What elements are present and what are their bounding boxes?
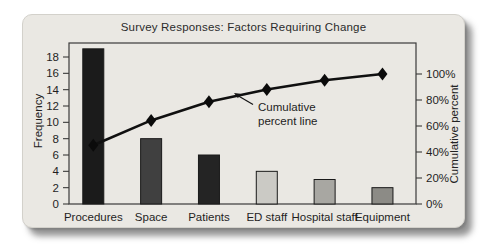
left-axis-tick-label: 10 <box>46 116 59 128</box>
cumulative-point-marker <box>204 95 214 108</box>
left-axis-label: Frequency <box>32 71 44 171</box>
left-axis-tick-label: 18 <box>46 51 59 63</box>
x-axis-category-label: Patients <box>188 211 230 223</box>
left-axis-tick-label: 8 <box>53 133 59 145</box>
x-axis-category-label: Hospital staff <box>291 211 358 223</box>
left-axis-tick-label: 0 <box>53 198 59 210</box>
left-axis-tick-label: 2 <box>53 182 59 194</box>
cumulative-line <box>93 74 382 145</box>
bar-patients <box>198 155 219 204</box>
left-axis-tick-label: 4 <box>53 165 60 177</box>
cumulative-point-marker <box>146 114 156 127</box>
plot-frame <box>69 43 416 204</box>
right-axis-tick-label: 0% <box>426 198 443 210</box>
bar-equipment <box>372 188 393 204</box>
right-axis-tick-label: 40% <box>426 146 449 158</box>
cumulative-point-marker <box>320 74 330 87</box>
cumulative-point-marker <box>262 83 272 96</box>
left-axis-tick-label: 12 <box>46 100 59 112</box>
cumulative-point-marker <box>377 68 387 81</box>
bar-hospital-staff <box>314 180 335 205</box>
cumulative-line-annotation: percent line <box>258 115 317 127</box>
x-axis-category-label: ED staff <box>246 211 287 223</box>
pareto-plot: 0246810121416180%20%40%60%80%100%Procedu… <box>23 15 464 227</box>
right-axis-tick-label: 20% <box>426 172 449 184</box>
right-axis-label: Cumulative percent <box>448 74 460 194</box>
page-background: Survey Responses: Factors Requiring Chan… <box>0 0 495 248</box>
bar-procedures <box>83 49 104 204</box>
left-axis-tick-label: 16 <box>46 67 59 79</box>
right-axis-tick-label: 80% <box>426 94 449 106</box>
left-axis-tick-label: 14 <box>46 84 59 96</box>
bar-space <box>141 139 162 204</box>
cumulative-line-annotation: Cumulative <box>258 101 316 113</box>
chart-card: Survey Responses: Factors Requiring Chan… <box>22 14 465 228</box>
x-axis-category-label: Procedures <box>64 211 123 223</box>
right-axis-tick-label: 60% <box>426 120 449 132</box>
left-axis-tick-label: 6 <box>53 149 59 161</box>
bar-ed-staff <box>256 171 277 204</box>
x-axis-category-label: Space <box>135 211 168 223</box>
annotation-arrow-line <box>239 96 254 105</box>
x-axis-category-label: Equipment <box>355 211 411 223</box>
